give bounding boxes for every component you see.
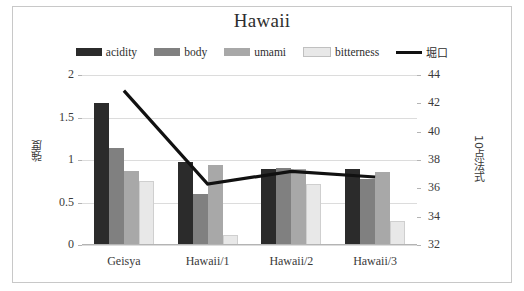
y-tick-left-label: 1.5 — [30, 110, 74, 125]
y-tick-right-mark — [417, 245, 421, 246]
y-tick-right-mark — [417, 75, 421, 76]
legend-label: body — [184, 46, 207, 58]
legend-label: 堀口 — [426, 44, 448, 60]
legend-label: bitterness — [335, 46, 379, 58]
y-tick-left-mark — [78, 203, 82, 204]
y-tick-right-mark — [417, 132, 421, 133]
x-axis-baseline — [82, 244, 417, 245]
bar-swatch-bitterness-icon — [303, 47, 331, 57]
y-tick-right-label: 42 — [428, 95, 458, 110]
gridline — [82, 245, 417, 246]
x-tick-label: Geisya — [79, 254, 169, 269]
chart-container: Hawaii aciditybodyumamibitterness堀口 00.5… — [0, 0, 524, 291]
y-axis-left-title: 強度 — [30, 140, 46, 162]
legend-item[interactable]: body — [154, 46, 207, 58]
legend-item[interactable]: umami — [224, 46, 286, 58]
y-tick-right-mark — [417, 188, 421, 189]
y-tick-right-label: 40 — [428, 124, 458, 139]
y-tick-right-label: 32 — [428, 237, 458, 252]
bar-swatch-body-icon — [154, 48, 180, 56]
y-tick-right-mark — [417, 103, 421, 104]
y-tick-left-label: 0 — [30, 237, 74, 252]
y-tick-left-mark — [78, 160, 82, 161]
bar-swatch-umami-icon — [224, 48, 250, 56]
y-tick-left-mark — [78, 118, 82, 119]
x-tick-label: Hawaii/3 — [330, 254, 420, 269]
plot-area — [82, 75, 417, 245]
y-tick-left-label: 0.5 — [30, 195, 74, 210]
y-tick-left-label: 2 — [30, 67, 74, 82]
y-tick-left-mark — [78, 245, 82, 246]
legend-item[interactable]: bitterness — [303, 46, 379, 58]
legend-label: acidity — [106, 46, 137, 58]
line-swatch-horiguchi-icon — [396, 51, 422, 54]
y-axis-right-title: 10点法式 — [470, 135, 486, 182]
line-series-horiguchi[interactable] — [124, 91, 375, 185]
chart-title: Hawaii — [0, 10, 524, 32]
y-tick-right-mark — [417, 160, 421, 161]
y-tick-right-label: 44 — [428, 67, 458, 82]
legend-item[interactable]: 堀口 — [396, 44, 448, 60]
y-tick-right-mark — [417, 217, 421, 218]
legend-label: umami — [254, 46, 286, 58]
y-tick-left-mark — [78, 75, 82, 76]
bar-swatch-acidity-icon — [76, 48, 102, 56]
y-tick-right-label: 34 — [428, 209, 458, 224]
x-tick-label: Hawaii/1 — [163, 254, 253, 269]
y-tick-right-label: 36 — [428, 180, 458, 195]
y-tick-right-label: 38 — [428, 152, 458, 167]
line-series-overlay — [82, 75, 417, 245]
chart-legend: aciditybodyumamibitterness堀口 — [0, 44, 524, 60]
legend-item[interactable]: acidity — [76, 46, 137, 58]
x-tick-label: Hawaii/2 — [246, 254, 336, 269]
